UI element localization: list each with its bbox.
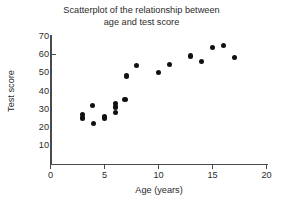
plot-area: 05101520 10203040506070 Age (years) Test… (0, 0, 282, 204)
data-point (167, 62, 172, 67)
data-point (91, 121, 96, 126)
y-tick-label: 40 (39, 86, 49, 96)
data-point (188, 53, 193, 58)
data-point (232, 55, 237, 60)
data-point (156, 70, 161, 75)
scatterplot-figure: Scatterplot of the relationship between … (0, 0, 282, 204)
data-point (113, 110, 118, 115)
x-tick-label: 20 (261, 170, 271, 180)
data-point (90, 103, 95, 108)
data-point (210, 45, 215, 50)
data-point (80, 115, 85, 120)
x-tick-label: 0 (48, 170, 53, 180)
data-point (124, 73, 129, 78)
data-point (134, 63, 139, 68)
x-tick-mark (158, 165, 159, 169)
x-tick-mark (104, 165, 105, 169)
y-tick-label: 30 (39, 104, 49, 114)
x-tick-mark (212, 165, 213, 169)
x-tick-mark (50, 165, 51, 169)
x-tick-label: 10 (153, 170, 163, 180)
y-tick-label: 20 (39, 122, 49, 132)
y-tick-label: 60 (39, 49, 49, 59)
y-tick-label: 50 (39, 67, 49, 77)
x-tick-label: 5 (102, 170, 107, 180)
y-tick-mark (52, 54, 56, 55)
y-tick-label: 10 (39, 140, 49, 150)
data-point (102, 115, 107, 120)
data-point (122, 97, 127, 102)
x-tick-mark (266, 165, 267, 169)
data-point (199, 59, 204, 64)
data-point (221, 43, 226, 48)
y-axis-title: Test score (6, 56, 16, 126)
x-tick-label: 15 (207, 170, 217, 180)
x-axis-title: Age (years) (50, 185, 268, 195)
y-tick-label: 70 (39, 31, 49, 41)
data-point (113, 104, 118, 109)
